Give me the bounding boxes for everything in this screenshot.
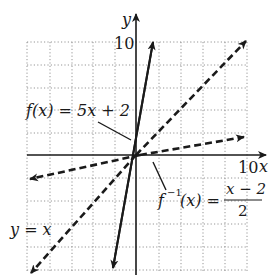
identity-line — [136, 41, 246, 155]
svg-text:x − 2: x − 2 — [226, 180, 266, 198]
svg-text:2: 2 — [238, 202, 248, 220]
f-label: f(x) = 5x + 2 — [25, 101, 130, 120]
y-tick-label: 10 — [114, 34, 134, 53]
finv-label-leader — [153, 162, 166, 190]
f-label-leader — [98, 122, 131, 140]
inverse-function-line — [140, 137, 244, 155]
inverse-function-line-lower — [30, 155, 140, 179]
identity-line-lower — [31, 155, 136, 273]
x-tick-label: 10 — [238, 158, 258, 177]
x-axis-label: x — [259, 157, 268, 176]
function-inverse-graph: y 10 10 x f(x) = 5x + 2 f −1 (x) = x − 2… — [0, 0, 277, 275]
svg-text:(x) =: (x) = — [180, 191, 220, 210]
svg-text:f: f — [157, 191, 167, 210]
finv-label: f −1 (x) = x − 2 2 — [157, 180, 266, 220]
y-axis-label: y — [121, 10, 132, 29]
identity-label: y = x — [9, 220, 52, 239]
grid — [27, 42, 247, 272]
